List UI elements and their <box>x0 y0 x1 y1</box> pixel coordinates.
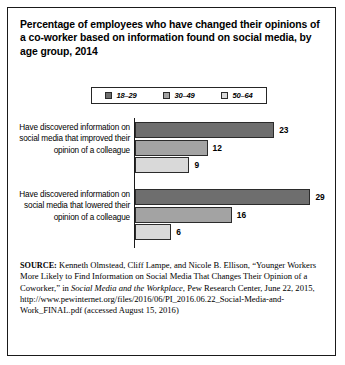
figure-container: Percentage of employees who have changed… <box>7 7 336 356</box>
bar-2-0 <box>135 157 189 173</box>
bar-chart-plot: Have discovered information on social me… <box>8 112 336 252</box>
legend-item-18-29: 18–29 <box>105 91 136 100</box>
legend-item-30-49: 30–49 <box>163 91 194 100</box>
source-prefix: SOURCE: <box>20 261 57 270</box>
legend-swatch-30-49 <box>163 92 170 99</box>
bar-0-1 <box>135 189 310 205</box>
legend-label-18-29: 18–29 <box>116 91 136 100</box>
chart-legend: 18–29 30–49 50–64 <box>91 87 267 104</box>
legend-swatch-50-64 <box>221 92 228 99</box>
bar-value-2-0: 9 <box>194 160 199 170</box>
bar-value-2-1: 6 <box>176 227 181 237</box>
bar-1-0 <box>135 140 208 156</box>
bar-value-1-0: 12 <box>213 143 222 153</box>
bar-0-0 <box>135 122 274 138</box>
category-label-1: Have discovered information on social me… <box>12 189 130 223</box>
legend-item-50-64: 50–64 <box>221 91 252 100</box>
category-label-0: Have discovered information on social me… <box>12 122 130 156</box>
legend-label-50-64: 50–64 <box>232 91 252 100</box>
bar-value-1-1: 16 <box>237 210 246 220</box>
legend-label-30-49: 30–49 <box>174 91 194 100</box>
source-italic-title: Social Media and the Workplace <box>71 283 183 293</box>
bar-2-1 <box>135 224 171 240</box>
bar-value-0-1: 29 <box>315 192 324 202</box>
bar-value-0-0: 23 <box>279 125 288 135</box>
page-title: Percentage of employees who have changed… <box>20 18 326 58</box>
source-citation: SOURCE: Kenneth Olmstead, Cliff Lampe, a… <box>20 260 323 316</box>
bar-1-1 <box>135 207 232 223</box>
legend-swatch-18-29 <box>105 92 112 99</box>
